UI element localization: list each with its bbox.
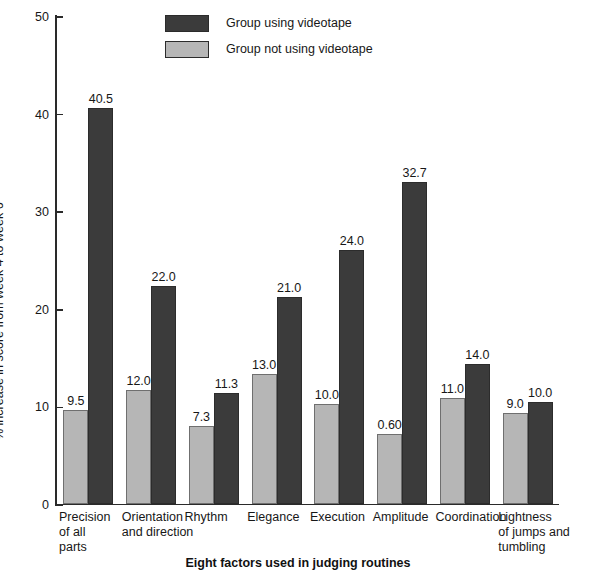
bar-no-videotape[interactable]: 10.0	[314, 404, 339, 504]
y-axis-tick-label: 50	[21, 11, 49, 24]
bar-group: 7.311.3	[183, 16, 246, 504]
bar-no-videotape[interactable]: 7.3	[189, 426, 214, 503]
category-label-line: of jumps and	[498, 525, 583, 540]
plot-area: 01020304050 9.540.512.022.07.311.313.021…	[55, 15, 559, 505]
bar-value-label: 32.7	[402, 166, 426, 180]
bar-no-videotape[interactable]: 12.0	[126, 390, 151, 503]
bar-videotape[interactable]: 40.5	[88, 108, 113, 503]
bar-group: 13.021.0	[245, 16, 308, 504]
bar-value-label: 11.0	[441, 382, 464, 396]
x-axis-category-label: Lightnessof jumps andtumbling	[498, 510, 583, 555]
bar-value-label: 14.0	[465, 348, 489, 362]
bar-videotape[interactable]: 10.0	[528, 402, 553, 504]
bar-group: 10.024.0	[308, 16, 371, 504]
y-axis-title-text: % increase in score from week 4 to week …	[0, 202, 6, 440]
bar-videotape[interactable]: 22.0	[151, 286, 176, 504]
bar-no-videotape[interactable]: 13.0	[252, 374, 277, 504]
bar-videotape[interactable]: 14.0	[465, 364, 490, 504]
bar-no-videotape[interactable]: 11.0	[440, 398, 465, 503]
category-label-line: and direction	[122, 525, 207, 540]
bar-value-label: 7.3	[193, 410, 210, 424]
bar-value-label: 10.0	[315, 388, 339, 402]
bar-value-label: 13.0	[252, 358, 276, 372]
category-label-line: Lightness	[498, 510, 583, 525]
y-axis-tick-label: 30	[21, 206, 49, 219]
bar-no-videotape[interactable]: 0.60	[377, 434, 402, 503]
bar-value-label: 11.3	[215, 377, 238, 391]
bar-value-label: 22.0	[151, 270, 175, 284]
bar-videotape[interactable]: 21.0	[277, 297, 302, 504]
y-axis-tick-labels: 01020304050	[21, 15, 49, 505]
bar-chart-figure: Group using videotape Group not using vi…	[0, 0, 596, 579]
bar-group: 11.014.0	[434, 16, 497, 504]
bar-value-label: 10.0	[528, 386, 552, 400]
bar-value-label: 0.60	[377, 418, 401, 432]
x-axis-line	[55, 504, 559, 506]
x-axis-title: Eight factors used in judging routines	[0, 556, 596, 570]
bar-videotape[interactable]: 32.7	[402, 182, 427, 503]
y-axis-tick-label: 0	[21, 499, 49, 512]
bar-group: 12.022.0	[120, 16, 183, 504]
bar-group: 9.540.5	[57, 16, 120, 504]
y-axis-tick-label: 40	[21, 109, 49, 122]
bar-groups: 9.540.512.022.07.311.313.021.010.024.00.…	[57, 16, 559, 504]
bar-value-label: 40.5	[89, 92, 113, 106]
bar-value-label: 9.0	[506, 397, 523, 411]
bar-group: 0.6032.7	[371, 16, 434, 504]
bar-value-label: 24.0	[340, 234, 364, 248]
bar-no-videotape[interactable]: 9.5	[63, 410, 88, 504]
bar-no-videotape[interactable]: 9.0	[503, 413, 528, 504]
bar-value-label: 9.5	[67, 394, 84, 408]
bar-value-label: 12.0	[126, 374, 150, 388]
y-axis-tick-label: 10	[21, 401, 49, 414]
category-label-line: tumbling	[498, 540, 583, 555]
y-axis-tick-label: 20	[21, 304, 49, 317]
bar-group: 9.010.0	[496, 16, 559, 504]
category-label-line: parts	[59, 540, 144, 555]
bar-value-label: 21.0	[277, 281, 301, 295]
y-axis-tick	[55, 504, 63, 506]
bar-videotape[interactable]: 24.0	[339, 250, 364, 504]
bar-videotape[interactable]: 11.3	[214, 393, 239, 503]
